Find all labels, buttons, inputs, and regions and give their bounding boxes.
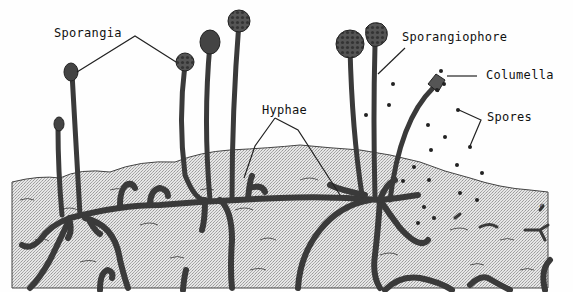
substrate-surface [12,145,548,288]
label-sporangiophore: Sporangiophore [402,30,507,44]
label-spores: Spores [487,110,532,124]
signature: ꝯ [539,199,544,210]
label-hyphae: Hyphae [262,103,307,117]
label-sporangia: Sporangia [54,26,122,40]
mold-diagram: Sporangia Hyphae Sporangiophore Columell… [0,0,573,292]
label-columella: Columella [486,68,554,82]
